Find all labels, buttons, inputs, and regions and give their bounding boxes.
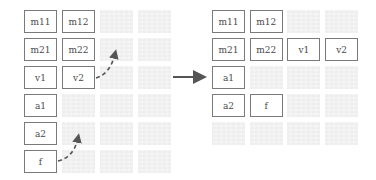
empty-cell bbox=[325, 122, 358, 145]
empty-cell bbox=[100, 66, 133, 89]
empty-cell bbox=[250, 66, 283, 89]
empty-cell bbox=[325, 10, 358, 33]
cell-a1: a1 bbox=[24, 94, 57, 117]
empty-cell bbox=[62, 94, 95, 117]
cell-a1: a1 bbox=[212, 66, 245, 89]
empty-cell bbox=[138, 150, 171, 173]
diagram-canvas: m11m12m21m22v1v2a1a2f m11m12m21m22v1v2a1… bbox=[0, 0, 376, 180]
cell-v1: v1 bbox=[287, 38, 320, 61]
cell-v2: v2 bbox=[325, 38, 358, 61]
empty-cell bbox=[287, 10, 320, 33]
cell-v1: v1 bbox=[24, 66, 57, 89]
empty-cell bbox=[100, 38, 133, 61]
cell-m11: m11 bbox=[212, 10, 245, 33]
cell-m22: m22 bbox=[62, 38, 95, 61]
cell-f: f bbox=[250, 94, 283, 117]
cell-m12: m12 bbox=[62, 10, 95, 33]
cell-m11: m11 bbox=[24, 10, 57, 33]
empty-cell bbox=[287, 94, 320, 117]
empty-cell bbox=[138, 38, 171, 61]
empty-cell bbox=[100, 10, 133, 33]
cell-a2: a2 bbox=[24, 122, 57, 145]
empty-cell bbox=[287, 66, 320, 89]
cell-m22: m22 bbox=[250, 38, 283, 61]
cell-f: f bbox=[24, 150, 57, 173]
cell-m21: m21 bbox=[24, 38, 57, 61]
empty-cell bbox=[138, 10, 171, 33]
empty-cell bbox=[100, 150, 133, 173]
empty-cell bbox=[138, 66, 171, 89]
empty-cell bbox=[62, 122, 95, 145]
empty-cell bbox=[62, 150, 95, 173]
empty-cell bbox=[138, 122, 171, 145]
cell-m21: m21 bbox=[212, 38, 245, 61]
cell-v2: v2 bbox=[62, 66, 95, 89]
empty-cell bbox=[287, 122, 320, 145]
empty-cell bbox=[250, 122, 283, 145]
cell-a2: a2 bbox=[212, 94, 245, 117]
empty-cell bbox=[100, 122, 133, 145]
empty-cell bbox=[138, 94, 171, 117]
empty-cell bbox=[325, 66, 358, 89]
empty-cell bbox=[325, 94, 358, 117]
empty-cell bbox=[212, 122, 245, 145]
empty-cell bbox=[100, 94, 133, 117]
cell-m12: m12 bbox=[250, 10, 283, 33]
